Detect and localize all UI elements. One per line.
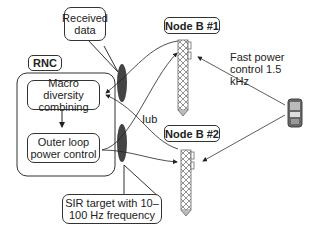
received-data-callout: Received data — [64, 7, 106, 41]
received-data-pointer — [88, 40, 118, 72]
nodeb1-to-macro-arrow — [106, 41, 178, 93]
tower-node-b1-icon — [178, 40, 191, 116]
rnc-label: RNC — [28, 55, 62, 71]
iub-label: Iub — [142, 113, 157, 125]
outer-to-nodeb2-arrow — [102, 150, 177, 162]
iub-ellipse-top — [117, 64, 127, 102]
mobile-phone-icon — [288, 99, 302, 127]
node-b1-label: Node B #1 — [164, 17, 220, 34]
macro-diversity-box: Macro diversity combining — [27, 80, 100, 110]
outer-loop-box: Outer loop power control — [27, 133, 100, 163]
node-b2-label: Node B #2 — [164, 125, 220, 142]
iub-ellipse-bottom — [117, 124, 127, 162]
sir-target-callout: SIR target with 10–100 Hz frequency — [62, 194, 162, 224]
fast-power-control-label: Fast power control 1.5 kHz — [230, 51, 302, 87]
tower-node-b2-icon — [181, 150, 194, 216]
